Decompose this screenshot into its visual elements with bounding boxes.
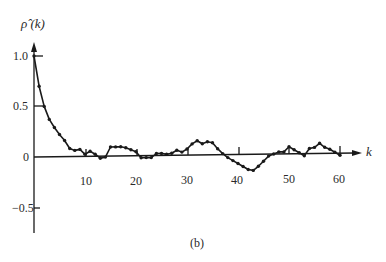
data-point — [241, 165, 244, 168]
y-axis-label: ρ̂ (k) — [21, 16, 45, 32]
data-point — [134, 150, 137, 153]
data-point — [282, 150, 285, 153]
data-point — [308, 147, 311, 150]
data-point — [109, 145, 112, 148]
x-tick-label-60: 60 — [333, 172, 345, 187]
data-point — [196, 139, 199, 142]
x-axis — [34, 153, 355, 157]
data-point — [292, 148, 295, 151]
data-point — [83, 153, 86, 156]
data-point — [160, 152, 163, 155]
y-tick-label-0: 0 — [23, 150, 29, 165]
data-point — [262, 160, 265, 163]
x-axis-label: k — [366, 144, 372, 160]
data-point — [272, 152, 275, 155]
data-point — [43, 105, 46, 108]
data-point — [338, 154, 341, 157]
x-tick-label-40: 40 — [231, 173, 243, 188]
x-tick-label-30: 30 — [181, 173, 193, 188]
data-point — [287, 145, 290, 148]
data-point — [333, 151, 336, 154]
data-point — [150, 156, 153, 159]
y-tick-label-05: 0.5 — [13, 99, 28, 114]
acf-chart — [0, 0, 386, 262]
data-point — [303, 154, 306, 157]
data-point — [37, 85, 40, 88]
data-point — [185, 147, 188, 150]
data-point — [119, 145, 122, 148]
data-point — [216, 147, 219, 150]
y-tick-label-1: 1.0 — [13, 49, 28, 64]
data-point — [155, 152, 158, 155]
data-point — [247, 168, 250, 171]
data-point — [99, 157, 102, 160]
data-point — [277, 150, 280, 153]
data-point — [32, 54, 35, 57]
data-point — [328, 148, 331, 151]
data-point — [104, 155, 107, 158]
data-point — [170, 152, 173, 155]
y-axis-arrow-icon — [31, 42, 37, 52]
data-point — [206, 140, 209, 143]
data-point — [175, 149, 178, 152]
data-point — [63, 139, 66, 142]
data-point — [231, 159, 234, 162]
x-tick-label-10: 10 — [80, 174, 92, 189]
acf-series-points — [32, 54, 341, 172]
data-point — [48, 118, 51, 121]
data-point — [318, 142, 321, 145]
data-point — [53, 126, 56, 129]
data-point — [323, 146, 326, 149]
x-tick-label-20: 20 — [130, 174, 142, 189]
data-point — [88, 150, 91, 153]
data-point — [190, 142, 193, 145]
data-point — [73, 149, 76, 152]
data-point — [145, 156, 148, 159]
figure-caption: (b) — [190, 236, 204, 251]
data-point — [114, 145, 117, 148]
data-point — [252, 169, 255, 172]
x-axis-arrow-icon — [352, 150, 362, 156]
data-point — [124, 146, 127, 149]
data-point — [129, 148, 132, 151]
data-point — [94, 153, 97, 156]
data-point — [313, 146, 316, 149]
data-point — [267, 154, 270, 157]
x-tick-label-50: 50 — [283, 172, 295, 187]
data-point — [298, 151, 301, 154]
data-point — [78, 148, 81, 151]
data-point — [236, 162, 239, 165]
data-point — [68, 147, 71, 150]
y-tick-label-m05: −0.5 — [12, 201, 34, 216]
data-point — [257, 165, 260, 168]
data-point — [221, 152, 224, 155]
data-point — [226, 156, 229, 159]
data-point — [139, 156, 142, 159]
data-point — [211, 141, 214, 144]
data-point — [165, 153, 168, 156]
data-point — [180, 150, 183, 153]
data-point — [201, 142, 204, 145]
axes — [31, 42, 362, 233]
data-point — [58, 133, 61, 136]
